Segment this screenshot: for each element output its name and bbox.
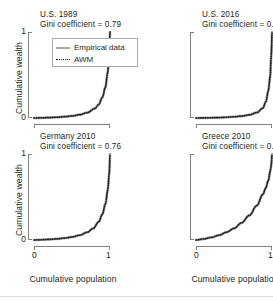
curve-awm (196, 32, 272, 118)
lorenz-curve-svg (196, 154, 272, 240)
x-axis-title: Cumulative population (188, 274, 273, 284)
x-tick-label-high: 1 (268, 251, 273, 260)
plot-area (196, 32, 272, 118)
y-axis-title: Cumulative wealth (14, 164, 24, 236)
plot-area (34, 154, 110, 240)
x-tick-label-low: 0 (32, 251, 37, 260)
y-axis (190, 32, 194, 118)
lorenz-curve-svg (34, 154, 110, 240)
panel-title: U.S. 1989 (40, 10, 77, 20)
panel-title: U.S. 2016 (202, 10, 239, 20)
x-axis-title: Cumulative population (26, 274, 120, 284)
lorenz-curve-svg (196, 32, 272, 118)
y-tick-label-high: 1 (21, 149, 26, 158)
y-tick-label-low: 0 (21, 113, 26, 122)
legend-swatch-dotted-line-icon (56, 56, 70, 63)
legend-item-awm: AWM (56, 53, 134, 65)
x-tick-label-low: 0 (194, 251, 199, 260)
panel-title: Greece 2010 (202, 132, 250, 142)
x-axis (196, 246, 272, 250)
curve-empirical-data (34, 154, 110, 240)
y-tick-label-high: 1 (21, 27, 26, 36)
panel-title: Germany 2010 (40, 132, 95, 142)
lorenz-curve-figure: U.S. 1989 Gini coefficient = 0.79 1 0 U.… (0, 0, 273, 301)
legend-label: AWM (74, 55, 93, 64)
x-tick-label-high: 1 (106, 251, 111, 260)
x-axis (34, 246, 110, 250)
plot-area (196, 154, 272, 240)
curve-empirical-data (196, 32, 272, 118)
legend-item-empirical: Empirical data (56, 41, 134, 53)
x-axis (34, 124, 110, 128)
x-axis (196, 124, 272, 128)
y-axis (28, 154, 32, 240)
y-tick-label-low: 0 (21, 235, 26, 244)
y-axis-title: Cumulative wealth (14, 42, 24, 114)
curve-awm (34, 154, 110, 240)
panel-gini-annotation: Gini coefficient = 0.55 (202, 142, 273, 152)
legend-swatch-solid-line-icon (56, 44, 70, 51)
legend: Empirical data AWM (52, 38, 138, 67)
legend-label: Empirical data (74, 43, 125, 52)
panel-gini-annotation: Gini coefficient = 0.76 (40, 142, 121, 152)
page-divider (0, 296, 273, 297)
panel-gini-annotation: Gini coefficient = 0.79 (40, 20, 121, 30)
y-axis (28, 32, 32, 118)
y-axis (190, 154, 194, 240)
panel-gini-annotation: Gini coefficient = 0.86 (202, 20, 273, 30)
